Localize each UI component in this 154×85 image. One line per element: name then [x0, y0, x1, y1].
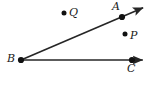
- geometry-figure: B A C Q P: [0, 0, 154, 85]
- point-label-q: Q: [69, 7, 78, 18]
- point-label-c: C: [127, 63, 135, 74]
- point-dot-a: [119, 14, 125, 20]
- point-dot-q: [62, 11, 67, 16]
- point-label-p: P: [130, 30, 137, 41]
- point-dot-p: [123, 32, 128, 37]
- point-label-a: A: [112, 1, 120, 12]
- point-label-b: B: [7, 53, 15, 64]
- point-dot-b: [18, 57, 24, 63]
